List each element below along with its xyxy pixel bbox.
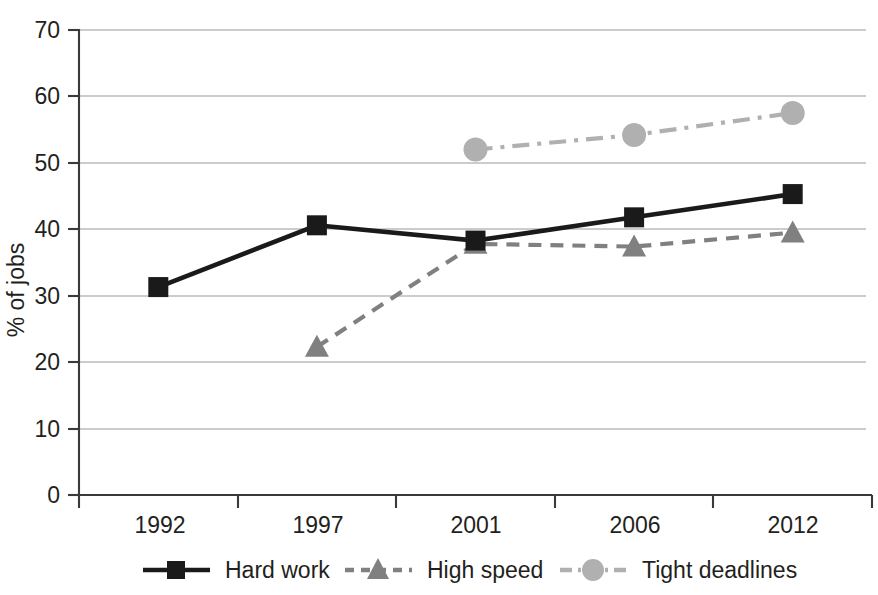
data-point-square-marker — [307, 215, 327, 235]
data-point-square-marker — [624, 207, 644, 227]
data-point-triangle-marker — [781, 221, 805, 243]
y-tick-label-40: 40 — [34, 216, 60, 242]
series-tight-deadlines — [464, 101, 805, 162]
chart-canvas: 70 60 50 40 30 20 10 0 % of jobs 1992 19… — [0, 0, 878, 595]
x-tick-labels: 1992 1997 2001 2006 2012 — [134, 512, 818, 538]
data-point-triangle-marker — [305, 335, 329, 357]
data-point-square-marker — [148, 277, 168, 297]
y-tick-label-60: 60 — [34, 83, 60, 109]
data-point-circle-marker — [464, 138, 488, 162]
x-tick-marks — [79, 495, 872, 508]
y-tick-label-10: 10 — [34, 416, 60, 442]
series-high-speed — [305, 221, 805, 357]
x-tick-label-2006: 2006 — [609, 512, 660, 538]
y-tick-label-0: 0 — [47, 482, 60, 508]
data-point-square-marker — [466, 231, 486, 251]
x-tick-label-1992: 1992 — [134, 512, 185, 538]
legend-item-high-speed[interactable]: High speed — [345, 557, 543, 583]
y-axis-title: % of jobs — [3, 243, 29, 338]
gridlines — [78, 30, 866, 429]
legend-marker-square-icon — [167, 561, 185, 579]
legend-item-hard-work[interactable]: Hard work — [143, 557, 330, 583]
data-point-circle-marker — [622, 123, 646, 147]
x-tick-label-2012: 2012 — [767, 512, 818, 538]
y-tick-label-20: 20 — [34, 349, 60, 375]
legend-label-hard-work: Hard work — [225, 557, 330, 583]
y-tick-label-30: 30 — [34, 283, 60, 309]
legend-item-tight-deadlines[interactable]: Tight deadlines — [560, 557, 797, 583]
legend: Hard work High speed Tight deadlines — [143, 557, 797, 583]
y-tick-labels: 70 60 50 40 30 20 10 0 — [34, 17, 60, 508]
y-tick-label-50: 50 — [34, 150, 60, 176]
y-tick-label-70: 70 — [34, 17, 60, 43]
line-chart: 70 60 50 40 30 20 10 0 % of jobs 1992 19… — [0, 0, 878, 595]
y-tick-marks — [68, 30, 79, 495]
legend-label-tight-deadlines: Tight deadlines — [642, 557, 797, 583]
legend-marker-circle-icon — [582, 559, 604, 581]
axes — [78, 29, 872, 496]
data-point-circle-marker — [781, 101, 805, 125]
legend-label-high-speed: High speed — [427, 557, 543, 583]
data-point-square-marker — [783, 184, 803, 204]
x-tick-label-1997: 1997 — [292, 512, 343, 538]
x-tick-label-2001: 2001 — [450, 512, 501, 538]
series-line — [317, 233, 793, 347]
